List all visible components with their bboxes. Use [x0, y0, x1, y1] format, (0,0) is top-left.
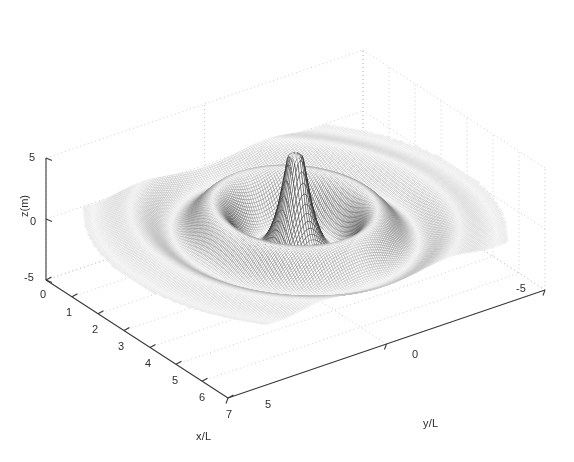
x-axis-label: x/L: [196, 430, 211, 442]
x-tick-label-1: 1: [66, 306, 72, 318]
z-tick-label-5: 5: [29, 151, 35, 163]
z-axis-label: z(m): [18, 176, 30, 236]
y-axis-label: y/L: [423, 417, 438, 429]
x-tick-label-6: 6: [199, 391, 205, 403]
z-tick-label-neg5: -5: [24, 271, 34, 283]
y-tick-label-0: 0: [412, 348, 418, 360]
x-tick-label-4: 4: [145, 357, 151, 369]
x-tick-label-7: 7: [226, 408, 232, 420]
surface-plot-canvas: [0, 0, 574, 462]
y-tick-label-5: 5: [265, 398, 271, 410]
x-tick-label-5: 5: [172, 374, 178, 386]
x-tick-label-0: 0: [40, 288, 46, 300]
y-tick-label-neg5: -5: [516, 282, 526, 294]
z-tick-label-0: 0: [30, 215, 36, 227]
x-tick-label-2: 2: [92, 323, 98, 335]
figure-3d-surface-plot: z(m) 5 0 -5 0 1 2 3 4 5 6 7 5 0 -5 x/L y…: [0, 0, 574, 462]
x-tick-label-3: 3: [118, 340, 124, 352]
